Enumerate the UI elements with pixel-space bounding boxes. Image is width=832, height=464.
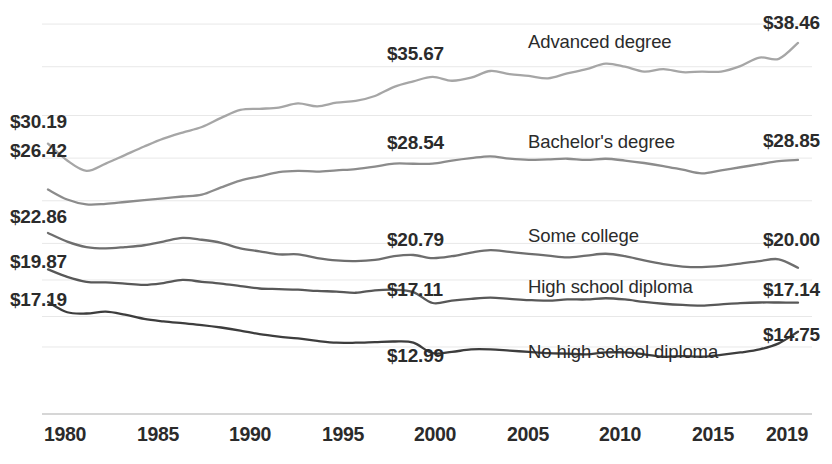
mid-value-label: $20.79: [387, 229, 444, 251]
mid-value-label: $12.99: [387, 345, 444, 367]
series-name-label: Some college: [528, 225, 639, 247]
mid-value-label: $35.67: [387, 43, 444, 65]
series-name-label: High school diploma: [528, 276, 693, 298]
x-tick-label: 2019: [766, 423, 808, 446]
series-lines-group: [48, 43, 798, 357]
end-value-label: $20.00: [763, 229, 820, 251]
end-value-label: $14.75: [763, 324, 820, 346]
end-value-label: $17.14: [763, 279, 820, 301]
end-value-label: $28.85: [763, 130, 820, 152]
x-tick-label: 2015: [692, 423, 734, 446]
mid-value-label: $28.54: [387, 132, 444, 154]
x-tick-label: 1990: [229, 423, 271, 446]
x-tick-label: 2000: [414, 423, 456, 446]
start-value-label: $22.86: [10, 206, 67, 228]
series-name-label: Advanced degree: [528, 31, 672, 53]
x-tick-label: 2005: [507, 423, 549, 446]
series-name-label: No high school diploma: [528, 341, 718, 363]
series-name-label: Bachelor's degree: [528, 131, 675, 153]
chart-container: $30.19$26.42$22.86$19.87$17.19 $35.67$28…: [0, 0, 832, 464]
x-tick-label: 1995: [322, 423, 364, 446]
start-value-label: $17.19: [10, 289, 67, 311]
start-value-label: $19.87: [10, 251, 67, 273]
start-value-label: $26.42: [10, 140, 67, 162]
x-tick-label: 2010: [599, 423, 641, 446]
series-line-bachelor-s-degree: [48, 156, 798, 204]
x-tick-label: 1985: [137, 423, 179, 446]
end-value-label: $38.46: [763, 12, 820, 34]
mid-value-label: $17.11: [387, 279, 443, 301]
start-value-label: $30.19: [10, 111, 67, 133]
x-tick-label: 1980: [44, 423, 86, 446]
